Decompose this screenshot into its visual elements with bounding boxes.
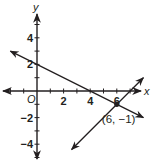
- x-tick-label: 4: [87, 95, 94, 107]
- y-tick-label: 4: [27, 32, 34, 44]
- x-tick-label: 6: [114, 95, 120, 107]
- x-tick-label: 2: [61, 95, 67, 107]
- y-axis-label: y: [32, 1, 40, 13]
- y-tick-label: −2: [20, 112, 33, 124]
- coordinate-graph: 24642−2−4 x y O (6, −1): [0, 0, 155, 163]
- intersection-label: (6, −1): [102, 113, 136, 125]
- y-tick-label: 2: [27, 58, 33, 70]
- origin-label: O: [27, 93, 36, 105]
- x-axis-label: x: [143, 85, 150, 97]
- y-tick-label: −4: [20, 138, 33, 150]
